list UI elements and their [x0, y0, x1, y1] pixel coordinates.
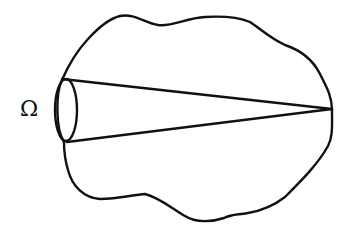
diagram-canvas: Ω: [0, 0, 354, 232]
omega-label: Ω: [16, 96, 42, 122]
region-boundary: [62, 15, 332, 221]
cone-upper-line: [62, 79, 332, 109]
solid-angle-diagram: [0, 0, 354, 232]
cone-lower-line: [67, 109, 332, 142]
